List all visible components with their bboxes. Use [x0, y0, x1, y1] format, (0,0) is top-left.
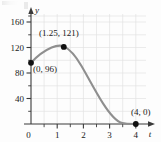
y-tick-label-160: 160: [11, 17, 25, 27]
x-axis-arrowhead: [148, 121, 155, 126]
x-tick-label-1: 1: [55, 130, 60, 140]
y-tick-label-40: 40: [15, 94, 25, 104]
y-tick-label-80: 80: [15, 68, 25, 78]
data-point-vertex: [61, 44, 67, 50]
y-axis-arrowhead: [28, 7, 33, 14]
parabola-plot: 160 120 80 40 0 1 2 3 4 y t (1.25, 121) …: [0, 0, 161, 142]
annotation-t-intercept: (4, 0): [131, 107, 151, 117]
y-axis-label: y: [34, 5, 39, 15]
x-tick-label-0: 0: [26, 130, 31, 140]
x-tick-label-2: 2: [81, 130, 86, 140]
annotation-vertex: (1.25, 121): [39, 28, 79, 38]
chart-figure: 160 120 80 40 0 1 2 3 4 y t (1.25, 121) …: [0, 0, 161, 142]
x-tick-label-4: 4: [134, 130, 139, 140]
x-axis-label: t: [149, 129, 152, 139]
y-tick-label-120: 120: [11, 43, 25, 53]
data-point-t-intercept: [133, 121, 139, 127]
annotation-y-intercept: (0, 96): [33, 64, 57, 74]
x-tick-label-3: 3: [107, 130, 112, 140]
